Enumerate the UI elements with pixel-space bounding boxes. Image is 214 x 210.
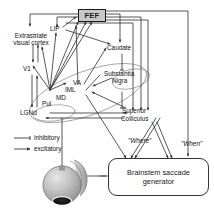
diagram-canvas: FEF LIP Extrastriate visual cortex V1 Pu… xyxy=(0,0,214,210)
edge-lip-to-fef xyxy=(63,17,76,27)
pathway-label-where: "Where" xyxy=(128,137,151,144)
edge-fef-to-caudate xyxy=(104,14,120,42)
node-extrastriate-label-line2: visual cortex xyxy=(8,39,54,46)
edge-lip-to-caudate xyxy=(66,30,110,44)
node-substantia-nigra-line2: Nigra xyxy=(112,77,127,84)
edge-fef-to-lip xyxy=(57,17,78,27)
node-fef[interactable]: FEF xyxy=(78,9,106,22)
node-iml-label: IML xyxy=(65,86,76,93)
node-caudate-label: Caudate xyxy=(107,44,131,51)
node-pul-label: Pul xyxy=(42,100,51,107)
legend-excitatory-label: excitatory xyxy=(34,145,61,152)
eye-graphic xyxy=(43,160,87,205)
edge-thalamus-to-brainstem xyxy=(86,95,126,158)
edge-sc-to-brainstem-when-a xyxy=(152,122,168,158)
pathway-label-when: "When" xyxy=(181,140,202,147)
node-brainstem-label: Brainstem saccade generator xyxy=(114,168,204,187)
node-superior-colliculus-line2: Colliculus xyxy=(121,115,148,122)
node-superior-colliculus-line1: Superior xyxy=(122,107,146,114)
node-fef-label: FEF xyxy=(85,11,100,20)
edge-sc-to-brainstem-when-b xyxy=(157,122,172,158)
node-v1-label: V1 xyxy=(23,65,31,72)
node-brainstem-saccade-generator[interactable]: Brainstem saccade generator xyxy=(108,158,209,196)
node-lgnd-label: LGNd xyxy=(20,109,37,116)
legend-symbols xyxy=(14,138,30,149)
edge-va-to-fef xyxy=(76,26,78,84)
edge-sc-to-md xyxy=(92,92,126,108)
node-md-label: MD xyxy=(56,94,66,101)
edge-pul-to-extrastriate xyxy=(42,47,50,90)
thalamus-outline xyxy=(22,51,154,135)
legend-inhibitory-label: inhibitory xyxy=(34,134,60,141)
